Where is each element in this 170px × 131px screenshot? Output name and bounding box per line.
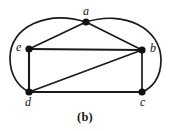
vertex-a bbox=[82, 18, 89, 25]
edge-group bbox=[10, 18, 161, 92]
edge-e-b bbox=[29, 49, 142, 50]
edge-a-b bbox=[86, 22, 142, 50]
vertex-b bbox=[138, 46, 145, 53]
edge-a-d-arc bbox=[10, 18, 86, 92]
edge-a-e bbox=[29, 22, 86, 49]
vertex-label-b: b bbox=[150, 42, 156, 54]
vertex-label-e: e bbox=[16, 41, 21, 53]
vertex-e bbox=[25, 45, 32, 52]
vertex-label-c: c bbox=[140, 96, 145, 108]
vertex-label-d: d bbox=[25, 96, 31, 108]
figure-caption: (b) bbox=[0, 110, 170, 125]
vertex-label-a: a bbox=[83, 5, 89, 17]
edge-d-b bbox=[29, 50, 142, 92]
edge-a-c-arc bbox=[86, 18, 161, 92]
graph-figure: a b c d e (b) bbox=[0, 0, 170, 131]
vertex-group bbox=[25, 18, 145, 95]
